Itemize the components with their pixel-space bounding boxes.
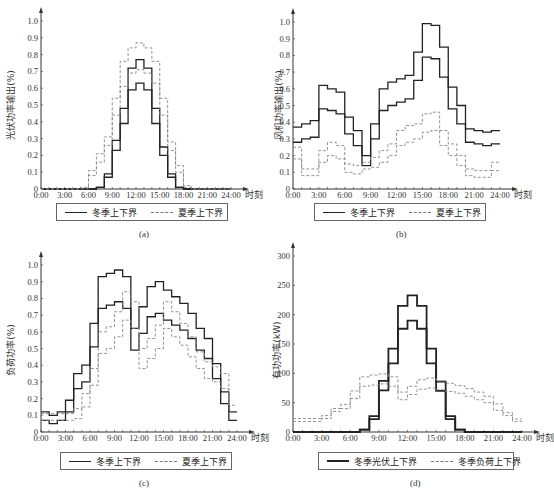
y-tick-label: 0.6 xyxy=(27,327,38,337)
dashed-line-swatch xyxy=(409,212,431,213)
chart-c: 0:003:006:009:0012:0015:0018:0021:0024:0… xyxy=(5,251,269,443)
x-tick-label: 21:00 xyxy=(484,433,503,443)
y-tick-label: 0.2 xyxy=(27,394,38,404)
y-tick-label: 0.6 xyxy=(27,83,38,93)
x-tick-label: 9:00 xyxy=(107,433,122,443)
solid-line-swatch xyxy=(323,212,345,213)
x-axis-label: 时刻 xyxy=(514,189,532,200)
dashed-line-swatch xyxy=(155,461,177,462)
x-tick-label: 18:00 xyxy=(178,433,197,443)
legend-item-winter-load: 冬季负荷上下界 xyxy=(431,455,521,468)
y-tick-label: 0.5 xyxy=(27,100,38,110)
y-tick-label: 250 xyxy=(277,280,290,290)
y-tick-label: 0.1 xyxy=(27,167,38,177)
x-axis-label: 时刻 xyxy=(245,189,263,200)
y-tick-label: 0.9 xyxy=(279,34,290,44)
solid-line-swatch xyxy=(69,461,91,462)
y-axis-label: 风机功率输出(%) xyxy=(273,70,284,140)
dashed-line-swatch xyxy=(151,212,173,213)
y-tick-label: 0.4 xyxy=(27,117,38,127)
x-tick-label: 3:00 xyxy=(57,190,72,200)
chart-b: 0:003:006:009:0012:0015:0018:0021:0024:0… xyxy=(273,8,532,200)
x-tick-label: 15:00 xyxy=(150,190,169,200)
caption-d: (d) xyxy=(410,478,421,488)
x-tick-label: 3:00 xyxy=(311,190,326,200)
legend-item-winter: 冬季上下界 xyxy=(69,455,141,468)
x-tick-label: 6:00 xyxy=(82,433,97,443)
x-tick-label: 21:00 xyxy=(198,190,217,200)
y-tick-label: 0.1 xyxy=(279,167,290,177)
caption-a: (a) xyxy=(139,229,149,239)
figure-canvas: 0:003:006:009:0012:0015:0018:0021:0024:0… xyxy=(0,0,554,498)
y-tick-label: 1.0 xyxy=(27,260,38,270)
series-line xyxy=(293,295,522,432)
x-tick-label: 15:00 xyxy=(413,190,432,200)
series-line xyxy=(41,83,231,189)
y-tick-label: 0.2 xyxy=(279,151,290,161)
legend-item-summer: 夏季上下界 xyxy=(409,206,481,219)
y-tick-label: 200 xyxy=(277,310,290,320)
y-tick-label: 0 xyxy=(286,184,290,194)
series-line xyxy=(293,131,500,178)
y-tick-label: 50 xyxy=(282,398,291,408)
x-tick-label: 9:00 xyxy=(371,433,386,443)
x-tick-label: 15:00 xyxy=(426,433,445,443)
chart-d: 0:003:006:009:0012:0015:0018:0021:0024:0… xyxy=(271,242,554,443)
legend-item-winter-pv: 冬季光伏上下界 xyxy=(327,455,417,468)
x-tick-label: 21:00 xyxy=(203,433,222,443)
y-tick-label: 0.8 xyxy=(27,50,38,60)
x-tick-label: 24:00 xyxy=(221,190,240,200)
x-axis-label: 时刻 xyxy=(536,432,554,443)
x-tick-label: 3:00 xyxy=(58,433,73,443)
y-tick-label: 0.8 xyxy=(279,50,290,60)
dashed-line-swatch xyxy=(431,461,453,462)
x-tick-label: 18:00 xyxy=(439,190,458,200)
legend-item-summer: 夏季上下界 xyxy=(151,206,223,219)
x-tick-label: 12:00 xyxy=(126,190,145,200)
x-tick-label: 18:00 xyxy=(455,433,474,443)
legend-d: 冬季光伏上下界 冬季负荷上下界 xyxy=(318,452,514,470)
y-axis-arrow-icon xyxy=(39,7,43,13)
x-tick-label: 12:00 xyxy=(387,190,406,200)
caption-c: (c) xyxy=(139,478,149,488)
solid-line-swatch xyxy=(65,212,87,213)
x-tick-label: 9:00 xyxy=(105,190,120,200)
y-tick-label: 0.3 xyxy=(27,377,38,387)
legend-item-winter: 冬季上下界 xyxy=(65,206,137,219)
y-tick-label: 0 xyxy=(34,427,38,437)
y-tick-label: 0.9 xyxy=(27,277,38,287)
y-tick-label: 0.3 xyxy=(27,134,38,144)
legend-item-winter: 冬季上下界 xyxy=(323,206,395,219)
y-tick-label: 0.7 xyxy=(27,310,38,320)
legend-c: 冬季上下界 夏季上下界 xyxy=(60,452,232,470)
x-tick-label: 24:00 xyxy=(227,433,246,443)
x-tick-label: 6:00 xyxy=(81,190,96,200)
y-tick-label: 0.4 xyxy=(27,360,38,370)
y-axis-arrow-icon xyxy=(291,242,295,248)
y-tick-label: 0.8 xyxy=(27,293,38,303)
x-tick-label: 9:00 xyxy=(363,190,378,200)
x-tick-label: 18:00 xyxy=(174,190,193,200)
y-axis-arrow-icon xyxy=(291,8,295,14)
caption-b: (b) xyxy=(396,229,407,239)
x-tick-label: 24:00 xyxy=(490,190,509,200)
x-tick-label: 12:00 xyxy=(398,433,417,443)
x-axis-label: 时刻 xyxy=(251,432,269,443)
y-tick-label: 1.0 xyxy=(27,16,38,26)
x-tick-label: 24:00 xyxy=(512,433,531,443)
y-tick-label: 1.0 xyxy=(279,17,290,27)
y-tick-label: 0.7 xyxy=(27,66,38,76)
x-tick-label: 6:00 xyxy=(337,190,352,200)
legend-a: 冬季上下界 夏季上下界 xyxy=(56,203,228,221)
chart-a: 0:003:006:009:0012:0015:0018:0021:0024:0… xyxy=(5,7,263,200)
y-axis-arrow-icon xyxy=(39,251,43,257)
y-axis-label: 光伏功率输出(%) xyxy=(5,70,16,140)
x-tick-label: 3:00 xyxy=(314,433,329,443)
x-tick-label: 15:00 xyxy=(154,433,173,443)
x-tick-label: 12:00 xyxy=(129,433,148,443)
legend-item-summer: 夏季上下界 xyxy=(155,455,227,468)
series-line xyxy=(41,60,231,189)
y-tick-label: 0 xyxy=(34,184,38,194)
y-axis-label: 有功功率(kW) xyxy=(271,321,282,378)
y-tick-label: 0.1 xyxy=(27,410,38,420)
